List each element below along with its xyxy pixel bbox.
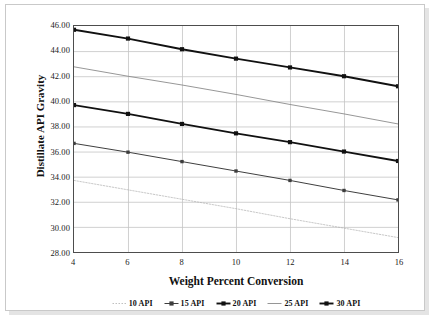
- legend-swatch-icon: [267, 299, 282, 308]
- legend-swatch-icon: [112, 299, 127, 308]
- legend-swatch-icon: [216, 299, 231, 308]
- series-marker-15-api: [126, 150, 129, 153]
- y-axis-tick-label: 46.00: [24, 20, 70, 30]
- plot-area: [73, 25, 399, 253]
- x-axis-tick-label: 6: [112, 257, 142, 267]
- series-line-10-api: [74, 180, 398, 237]
- legend-marker: [169, 301, 173, 305]
- legend-label: 10 API: [129, 299, 153, 308]
- x-axis-tick-label: 10: [221, 257, 251, 267]
- series-marker-15-api: [288, 179, 291, 182]
- x-axis-title: Weight Percent Conversion: [73, 275, 399, 287]
- series-marker-15-api: [234, 169, 237, 172]
- x-axis-tick-label: 16: [384, 257, 414, 267]
- legend-swatch-icon: [319, 299, 334, 308]
- series-marker-15-api: [342, 189, 345, 192]
- y-axis-tick-label: 40.00: [24, 96, 70, 106]
- legend-swatch-icon: [164, 299, 179, 308]
- y-axis-tick-labels: 28.0030.0032.0034.0036.0038.0040.0042.00…: [18, 25, 70, 253]
- series-marker-15-api: [396, 198, 398, 201]
- x-axis-tick-label: 8: [167, 257, 197, 267]
- figure-frame: Distillate API Gravity 28.0030.0032.0034…: [5, 4, 425, 311]
- series-line-25-api: [74, 67, 398, 124]
- series-marker-20-api: [74, 103, 76, 107]
- legend-item-25-api[interactable]: 25 API: [267, 299, 308, 308]
- legend-label: 15 API: [181, 299, 205, 308]
- series-marker-30-api: [74, 28, 76, 32]
- series-marker-20-api: [342, 149, 346, 153]
- chart-screenshot: Distillate API Gravity 28.0030.0032.0034…: [0, 0, 434, 322]
- legend-item-10-api[interactable]: 10 API: [112, 299, 153, 308]
- legend-label: 25 API: [284, 299, 308, 308]
- series-marker-30-api: [126, 36, 130, 40]
- y-axis-tick-label: 32.00: [24, 197, 70, 207]
- y-axis-tick-label: 44.00: [24, 45, 70, 55]
- y-axis-tick-label: 34.00: [24, 172, 70, 182]
- legend-marker: [325, 301, 329, 305]
- series-marker-30-api: [234, 57, 238, 61]
- x-axis-tick-label: 12: [275, 257, 305, 267]
- plot-svg: [74, 26, 398, 252]
- x-axis-tick-label: 14: [330, 257, 360, 267]
- series-marker-20-api: [288, 140, 292, 144]
- series-marker-15-api: [180, 160, 183, 163]
- legend-label: 30 API: [336, 299, 360, 308]
- series-marker-15-api: [74, 142, 76, 145]
- series-marker-30-api: [288, 65, 292, 69]
- chart-legend: 10 API15 API20 API25 API30 API: [73, 295, 399, 311]
- y-axis-tick-label: 30.00: [24, 223, 70, 233]
- series-marker-20-api: [396, 159, 398, 163]
- series-marker-20-api: [126, 112, 130, 116]
- series-marker-20-api: [234, 131, 238, 135]
- legend-item-15-api[interactable]: 15 API: [164, 299, 205, 308]
- y-axis-tick-label: 42.00: [24, 71, 70, 81]
- series-marker-20-api: [180, 122, 184, 126]
- x-axis-tick-label: 4: [58, 257, 88, 267]
- series-marker-30-api: [342, 74, 346, 78]
- legend-item-20-api[interactable]: 20 API: [216, 299, 257, 308]
- series-marker-30-api: [396, 84, 398, 88]
- y-axis-tick-label: 36.00: [24, 147, 70, 157]
- legend-marker: [221, 301, 225, 305]
- y-axis-tick-label: 38.00: [24, 121, 70, 131]
- series-marker-30-api: [180, 47, 184, 51]
- legend-label: 20 API: [233, 299, 257, 308]
- x-axis-tick-labels: 46810121416: [73, 257, 399, 271]
- legend-item-30-api[interactable]: 30 API: [319, 299, 360, 308]
